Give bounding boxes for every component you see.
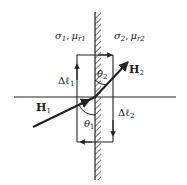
region1-label: σ1,μr1 — [55, 30, 86, 43]
boundary-diagram: σ1,μr1 σ2,μr2 Δℓ1 Δℓ2 θ2 θ1 H1 H2 — [0, 0, 187, 185]
theta1-label: θ1 — [84, 118, 95, 131]
delta-l1-label: Δℓ1 — [58, 75, 74, 88]
delta-l2-label: Δℓ2 — [118, 107, 134, 120]
region2-label: σ2,μr2 — [114, 30, 145, 43]
h1-label: H1 — [36, 101, 51, 115]
h2-label: H2 — [129, 63, 144, 77]
theta1-arc — [79, 105, 95, 115]
